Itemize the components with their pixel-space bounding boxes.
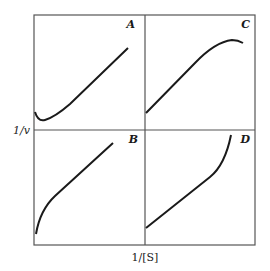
curve-d (146, 135, 231, 228)
curve-b (36, 143, 113, 234)
curve-a (35, 48, 128, 120)
panel-label-c: C (241, 18, 250, 31)
panel-label-d: D (239, 133, 250, 146)
curve-c (146, 40, 243, 113)
panel-label-b: B (128, 133, 138, 146)
y-axis-label: 1/v (13, 124, 31, 137)
panel-label-a: A (125, 18, 135, 31)
x-axis-label: 1/[S] (132, 251, 159, 264)
lineweaver-burk-diagram: A C B D 1/v 1/[S] (0, 0, 270, 271)
